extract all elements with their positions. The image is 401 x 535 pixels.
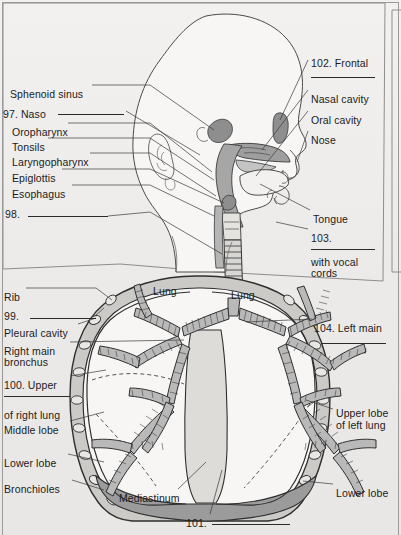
blank-100[interactable] xyxy=(4,396,70,397)
label-nasal-cavity: Nasal cavity xyxy=(311,93,369,105)
blank-98[interactable] xyxy=(28,216,108,217)
label-98: 98. xyxy=(5,208,20,220)
label-bronchioles: Bronchioles xyxy=(4,483,60,495)
label-lower-lobe-left: Lower lobe xyxy=(336,487,388,499)
right-edge-panel-outline xyxy=(392,10,401,272)
blank-99[interactable] xyxy=(30,318,96,319)
blank-104[interactable] xyxy=(322,343,386,344)
label-sphenoid-sinus: Sphenoid sinus xyxy=(10,88,83,100)
label-esophagus: Esophagus xyxy=(12,188,65,200)
leader-rib xyxy=(26,288,112,300)
label-104-left-main: 104. Left main xyxy=(314,322,382,334)
label-cords: cords xyxy=(311,267,337,279)
label-100-upper: 100. Upper xyxy=(4,379,57,391)
label-99: 99. xyxy=(4,310,19,322)
esophagus xyxy=(214,206,224,268)
larynx xyxy=(222,213,241,240)
blank-103[interactable] xyxy=(311,249,375,250)
label-middle-lobe: Middle lobe xyxy=(4,424,59,436)
mediastinum xyxy=(185,330,228,503)
label-pleural-cavity: Pleural cavity xyxy=(4,327,68,339)
label-lung-right: Lung xyxy=(153,285,177,297)
label-rib: Rib xyxy=(4,291,20,303)
label-102-frontal: 102. Frontal xyxy=(311,57,368,69)
label-of-right-lung: of right lung xyxy=(4,409,60,421)
label-97-nasopharynx: 97. Naso xyxy=(3,108,46,120)
tongue xyxy=(240,170,289,195)
label-epiglottis: Epiglottis xyxy=(12,172,56,184)
label-oropharynx: Oropharynx xyxy=(12,126,68,138)
blank-101[interactable] xyxy=(212,524,290,525)
label-oral-cavity: Oral cavity xyxy=(311,114,362,126)
leader-103 xyxy=(276,222,308,229)
label-upper-lobe: Upper lobe xyxy=(336,407,388,419)
worksheet-page: Sphenoid sinus 97. Naso Oropharynx Tonsi… xyxy=(0,0,401,535)
label-tonsils: Tonsils xyxy=(12,141,45,153)
label-lung-left: Lung xyxy=(231,289,255,301)
label-tongue: Tongue xyxy=(313,213,348,225)
blank-102[interactable] xyxy=(311,77,375,78)
label-101: 101. xyxy=(186,517,207,529)
blank-97[interactable] xyxy=(58,114,124,115)
label-lower-lobe-right: Lower lobe xyxy=(4,457,56,469)
label-mediastinum: Mediastinum xyxy=(119,492,180,504)
label-nose: Nose xyxy=(311,134,336,146)
label-103: 103. xyxy=(311,232,332,244)
label-bronchus: bronchus xyxy=(4,356,48,368)
label-of-left-lung: of left lung xyxy=(336,419,386,431)
label-laryngopharynx: Laryngopharynx xyxy=(12,156,89,168)
